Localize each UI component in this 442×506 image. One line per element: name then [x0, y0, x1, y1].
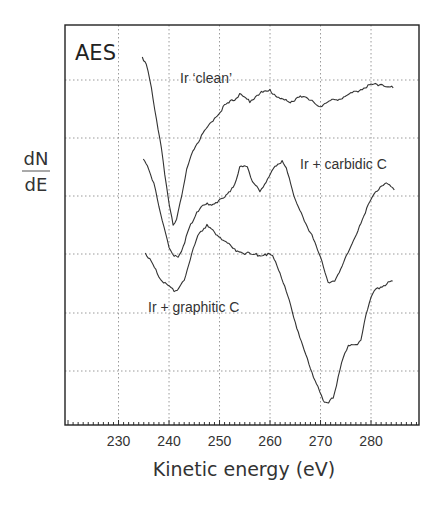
x-tick-label: 240	[157, 433, 181, 449]
x-minor-ticks	[68, 420, 416, 425]
chart-title: AES	[75, 41, 116, 65]
x-axis-label: Kinetic energy (eV)	[153, 458, 335, 480]
x-tick-label: 250	[208, 433, 232, 449]
series-ir-carbidic-c	[143, 159, 394, 283]
aes-spectrum-chart: AES Ir ‘clean’ Ir + carbidic C Ir + grap…	[0, 0, 442, 506]
x-tick-labels: 230240250260270280	[107, 433, 383, 449]
x-tick-label: 280	[359, 433, 383, 449]
y-axis-label: dN dE	[22, 148, 50, 195]
label-ir-clean: Ir ‘clean’	[180, 70, 232, 86]
x-tick-label: 260	[258, 433, 282, 449]
label-ir-graphitic-c: Ir + graphitic C	[148, 299, 239, 315]
label-ir-carbidic-c: Ir + carbidic C	[300, 156, 387, 172]
y-label-denominator: dE	[25, 174, 48, 195]
x-tick-label: 270	[309, 433, 333, 449]
y-label-numerator: dN	[24, 148, 49, 169]
x-tick-label: 230	[107, 433, 131, 449]
grid-lines	[65, 25, 419, 425]
